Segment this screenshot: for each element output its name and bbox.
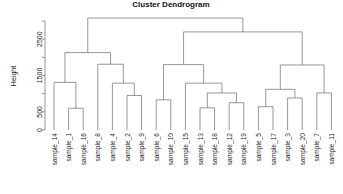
leaf-label: sample_12 xyxy=(226,133,234,166)
dendrogram-link xyxy=(98,64,124,130)
dendrogram-link xyxy=(164,65,204,100)
y-axis: 050015002500Height xyxy=(10,21,46,132)
leaf-label: sample_7 xyxy=(313,133,321,162)
leaf-label: sample_15 xyxy=(182,133,190,166)
chart-title: Cluster Dendrogram xyxy=(132,0,209,9)
dendrogram-link xyxy=(184,32,303,65)
leaf-label: sample_2 xyxy=(124,133,132,162)
cluster-dendrogram-plot: Cluster Dendrogram050015002500Heightsamp… xyxy=(0,0,343,194)
y-axis-title: Height xyxy=(10,66,18,86)
dendrogram-link xyxy=(200,108,215,130)
leaf-label: sample_6 xyxy=(153,133,161,162)
leaf-label: sample_11 xyxy=(328,133,336,165)
dendrogram-svg: Cluster Dendrogram050015002500Heightsamp… xyxy=(0,0,343,194)
dendrogram-link xyxy=(280,65,324,93)
leaf-label: sample_10 xyxy=(167,133,175,166)
dendrogram-link xyxy=(317,93,332,130)
dendrogram-link xyxy=(65,53,111,83)
leaf-labels: sample_14sample_1sample_16sample_8sample… xyxy=(51,133,336,166)
leaf-label: sample_3 xyxy=(284,133,292,162)
leaf-label: sample_18 xyxy=(211,133,219,166)
dendrogram-link xyxy=(54,82,76,130)
leaf-label: sample_8 xyxy=(94,133,102,162)
dendrogram-link xyxy=(258,107,273,130)
dendrogram-link xyxy=(207,93,236,108)
dendrogram-link xyxy=(127,95,142,130)
leaf-label: sample_17 xyxy=(270,133,278,166)
y-axis-tick-label: 2500 xyxy=(36,31,43,47)
leaf-label: sample_19 xyxy=(240,133,248,166)
y-axis-tick-label: 0 xyxy=(36,128,43,132)
dendrogram-link xyxy=(112,83,134,130)
dendrogram-link xyxy=(229,103,244,130)
leaf-label: sample_4 xyxy=(109,133,117,162)
dendrogram-links xyxy=(54,18,331,130)
dendrogram-link xyxy=(88,18,243,53)
y-axis-tick-label: 1500 xyxy=(36,68,43,84)
leaf-label: sample_1 xyxy=(65,133,73,162)
leaf-label: sample_16 xyxy=(80,133,88,166)
dendrogram-link xyxy=(156,100,171,130)
leaf-label: sample_9 xyxy=(138,133,146,162)
dendrogram-link xyxy=(185,83,222,130)
leaf-label: sample_13 xyxy=(197,133,205,166)
dendrogram-link xyxy=(69,108,84,130)
dendrogram-link xyxy=(288,98,303,130)
leaf-label: sample_14 xyxy=(51,133,59,166)
leaf-label: sample_5 xyxy=(255,133,263,162)
y-axis-tick-label: 500 xyxy=(36,106,43,118)
leaf-label: sample_20 xyxy=(299,133,307,166)
